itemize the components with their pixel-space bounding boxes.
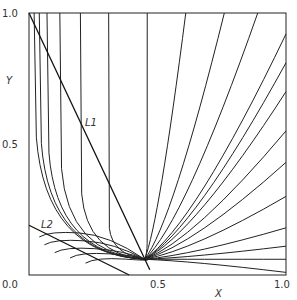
- line-l1: [29, 13, 150, 270]
- trajectory-16: [145, 228, 286, 259]
- trajectory-9: [145, 13, 258, 259]
- y-axis-label: Y: [6, 76, 12, 86]
- trajectory-4: [80, 13, 144, 259]
- isoclines: [29, 13, 150, 275]
- l2-label: L2: [41, 220, 53, 230]
- trajectory-19: [145, 259, 286, 272]
- trajectory-10: [145, 34, 286, 259]
- phase-portrait: [0, 0, 297, 300]
- trajectory-3: [60, 13, 145, 259]
- l1-label: L1: [85, 118, 97, 128]
- x-tick-0: 0.0: [2, 280, 18, 290]
- x-axis-label: X: [215, 289, 222, 299]
- y-tick-05: 0.5: [2, 140, 18, 150]
- trajectory-6: [145, 13, 148, 259]
- trajectory-1: [39, 13, 144, 259]
- trajectories: [34, 13, 286, 272]
- y-tick-1: 1.0: [2, 9, 18, 19]
- x-tick-1: 1.0: [274, 280, 290, 290]
- trajectory-15: [145, 196, 286, 259]
- trajectory-5: [109, 13, 145, 259]
- x-tick-05: 0.5: [150, 280, 166, 290]
- trajectory-11: [145, 63, 286, 260]
